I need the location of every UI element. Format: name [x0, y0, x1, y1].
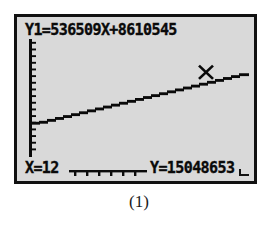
x-value-readout: X=12 — [25, 160, 59, 177]
trace-cursor-crosshair — [199, 66, 213, 79]
graph-canvas — [17, 39, 254, 157]
equation-readout: Y1=536509X+8610545 — [25, 22, 177, 38]
calculator-screen-frame: Y1=536509X+8610545 — [14, 14, 257, 184]
x-axis — [69, 168, 147, 177]
graph-plot-area — [17, 39, 254, 157]
x-axis-ticks — [74, 172, 136, 176]
figure-caption: (1) — [0, 192, 278, 212]
trace-status-bar: X=12 Y=15048653 — [17, 159, 254, 180]
function-line-y1 — [31, 73, 249, 124]
y-axis — [29, 39, 36, 157]
y-axis-ticks — [32, 42, 36, 150]
cursor-corner-marker — [239, 169, 249, 176]
calculator-screen: Y1=536509X+8610545 — [17, 17, 254, 181]
y-value-readout: Y=15048653 — [150, 160, 234, 177]
x-axis-svg — [69, 168, 147, 177]
